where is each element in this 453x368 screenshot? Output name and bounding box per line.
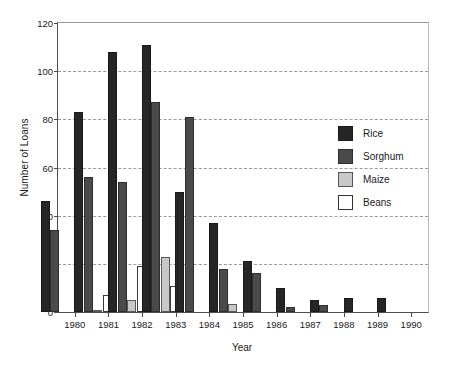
y-tick-mark — [54, 23, 58, 24]
x-tick-mark — [411, 312, 412, 317]
bar-sorghum-1987 — [286, 307, 295, 312]
bar-rice-1984 — [175, 192, 184, 312]
x-tick-mark — [344, 312, 345, 317]
bar-rice-1986 — [243, 261, 252, 312]
y-tick-label: 80 — [42, 114, 53, 125]
legend-label: Beans — [363, 197, 391, 208]
bar-rice-1988 — [310, 300, 319, 312]
x-tick-mark — [277, 312, 278, 317]
legend-item-sorghum: Sorghum — [338, 145, 438, 168]
x-tick-mark — [378, 312, 379, 317]
bar-rice-1980 — [41, 201, 50, 312]
x-tick-label: 1988 — [333, 319, 354, 330]
bar-rice-1990 — [377, 298, 386, 312]
y-tick-label: 60 — [42, 162, 53, 173]
y-tick-mark — [54, 71, 58, 72]
legend-label: Sorghum — [363, 151, 404, 162]
legend-item-beans: Beans — [338, 191, 438, 214]
bar-sorghum-1985 — [219, 269, 228, 312]
bar-rice-1982 — [108, 52, 117, 312]
bar-rice-1985 — [209, 223, 218, 312]
bar-sorghum-1988 — [319, 305, 328, 312]
bar-rice-1987 — [276, 288, 285, 312]
x-tick-mark — [108, 312, 109, 317]
bar-rice-1989 — [344, 298, 353, 312]
legend-item-rice: Rice — [338, 122, 438, 145]
legend: RiceSorghumMaizeBeans — [338, 122, 438, 214]
x-tick-label: 1982 — [132, 319, 153, 330]
x-tick-label: 1985 — [232, 319, 253, 330]
x-tick-mark — [243, 312, 244, 317]
x-axis-title: Year — [57, 342, 427, 353]
x-tick-label: 1983 — [165, 319, 186, 330]
bar-sorghum-1983 — [151, 102, 160, 312]
y-tick-mark — [54, 168, 58, 169]
legend-swatch-rice — [338, 126, 353, 141]
x-tick-label: 1984 — [199, 319, 220, 330]
y-tick-mark — [54, 119, 58, 120]
y-tick-label: 100 — [37, 66, 53, 77]
bar-sorghum-1980 — [50, 230, 59, 312]
bar-maize-1983 — [161, 257, 170, 312]
bar-rice-1983 — [142, 45, 151, 312]
bar-chart-figure: Number of Loans 020406080100120 19801981… — [0, 0, 453, 368]
legend-swatch-sorghum — [338, 149, 353, 164]
x-tick-mark — [310, 312, 311, 317]
legend-swatch-beans — [338, 195, 353, 210]
legend-swatch-maize — [338, 172, 353, 187]
x-tick-mark — [75, 312, 76, 317]
bar-maize-1985 — [228, 304, 237, 312]
x-tick-label: 1986 — [266, 319, 287, 330]
y-axis-title: Number of Loans — [19, 68, 30, 248]
legend-item-maize: Maize — [338, 168, 438, 191]
x-tick-label: 1989 — [367, 319, 388, 330]
y-tick-mark — [54, 312, 58, 313]
x-tick-mark — [176, 312, 177, 317]
x-tick-label: 1987 — [300, 319, 321, 330]
x-tick-label: 1990 — [401, 319, 422, 330]
x-tick-mark — [209, 312, 210, 317]
x-tick-label: 1981 — [98, 319, 119, 330]
bar-sorghum-1986 — [252, 273, 261, 312]
x-tick-label: 1980 — [64, 319, 85, 330]
legend-label: Rice — [363, 128, 383, 139]
legend-label: Maize — [363, 174, 390, 185]
y-tick-label: 120 — [37, 18, 53, 29]
x-tick-mark — [142, 312, 143, 317]
bar-rice-1981 — [74, 112, 83, 312]
bar-maize-1981 — [93, 310, 102, 312]
bar-maize-1982 — [127, 300, 136, 312]
bar-sorghum-1984 — [185, 117, 194, 312]
y-tick-mark — [54, 216, 58, 217]
bar-sorghum-1981 — [84, 177, 93, 312]
bar-sorghum-1982 — [118, 182, 127, 312]
